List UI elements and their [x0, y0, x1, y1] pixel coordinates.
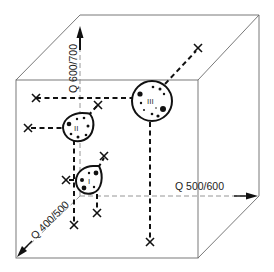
axis-label-horizontal: Q 500/600 [175, 180, 224, 192]
x-marker-icon [70, 221, 78, 229]
x-marker-icon [146, 238, 154, 246]
axis-label-vertical: Q 600/700 [67, 44, 79, 93]
x-marker-icon [93, 209, 101, 217]
connector-diagonal-top [165, 51, 196, 84]
arrow-depth-shaft [24, 241, 32, 249]
cube-diagram: Q 600/700 Q 500/600 Q 400/500 [0, 0, 274, 272]
cluster-I: I [76, 166, 102, 194]
x-marker-icon [194, 44, 202, 52]
cluster-III-label: III [147, 97, 154, 106]
axis-label-depth: Q 400/500 [28, 198, 71, 241]
cube-edge-top-right [198, 15, 259, 80]
x-marker-icon [94, 101, 102, 109]
x-marker-icon [24, 124, 32, 132]
cluster-II-label: II [74, 124, 78, 133]
cluster-II: II [63, 113, 93, 141]
cluster-III: III [132, 81, 172, 121]
cluster-I-label: I [88, 177, 90, 186]
x-marker-icon [62, 176, 70, 184]
arrow-up-icon [77, 26, 84, 38]
cube-edge-bottom-right [198, 196, 259, 258]
